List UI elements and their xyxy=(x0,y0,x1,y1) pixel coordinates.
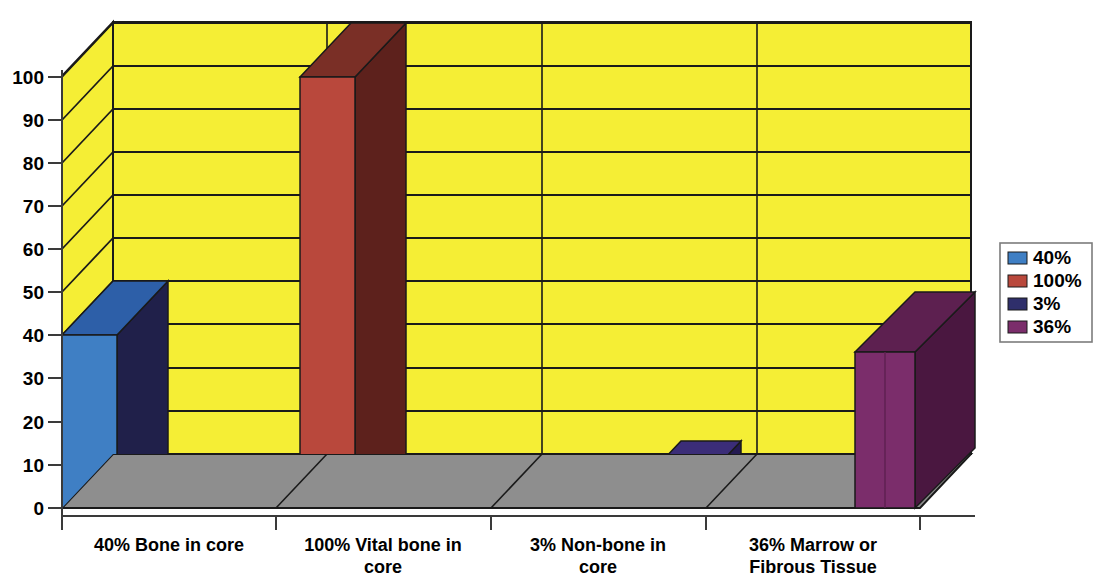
x-category-label-4-line2: Fibrous Tissue xyxy=(749,557,877,577)
legend-swatch-3 xyxy=(1008,298,1027,310)
x-category-label-3-line1: 3% Non-bone in xyxy=(530,535,666,555)
chart-canvas: 100 90 80 70 60 50 40 30 20 10 0 40% Bon… xyxy=(0,0,1111,580)
bar-column-2[interactable] xyxy=(300,23,406,508)
y-tick-label: 10 xyxy=(23,455,44,476)
x-category-label-4-line1: 36% Marrow or xyxy=(749,535,877,555)
y-tick-labels: 100 90 80 70 60 50 40 30 20 10 0 xyxy=(12,67,44,519)
y-tick-label: 50 xyxy=(23,282,44,303)
x-category-label-2-line1: 100% Vital bone in xyxy=(304,535,462,555)
bar-2-side xyxy=(355,23,406,508)
legend-swatch-2 xyxy=(1008,275,1027,287)
x-category-label-2-line2: core xyxy=(364,557,402,577)
x-category-label-1: 40% Bone in core xyxy=(94,535,244,555)
legend-swatch-4 xyxy=(1008,321,1027,333)
bar-2-front xyxy=(300,77,355,508)
y-tick-label: 20 xyxy=(23,412,44,433)
y-tick-label: 0 xyxy=(33,498,44,519)
y-tick-label: 100 xyxy=(12,67,44,88)
legend-swatch-1 xyxy=(1008,252,1027,264)
legend-label-4: 36% xyxy=(1033,316,1071,337)
legend-label-3: 3% xyxy=(1033,293,1061,314)
y-tick-label: 60 xyxy=(23,239,44,260)
y-tick-label: 90 xyxy=(23,110,44,131)
legend: 40% 100% 3% 36% xyxy=(1000,243,1092,342)
y-tick-label: 30 xyxy=(23,368,44,389)
x-category-label-3-line2: core xyxy=(579,557,617,577)
y-axis xyxy=(48,70,62,516)
y-tick-label: 40 xyxy=(23,325,44,346)
x-category-labels: 40% Bone in core 100% Vital bone in core… xyxy=(94,535,877,577)
x-axis xyxy=(62,516,975,530)
y-tick-label: 70 xyxy=(23,196,44,217)
legend-label-2: 100% xyxy=(1033,270,1082,291)
y-tick-label: 80 xyxy=(23,153,44,174)
bar-chart-3d: 100 90 80 70 60 50 40 30 20 10 0 40% Bon… xyxy=(0,0,1111,580)
legend-label-1: 40% xyxy=(1033,247,1071,268)
